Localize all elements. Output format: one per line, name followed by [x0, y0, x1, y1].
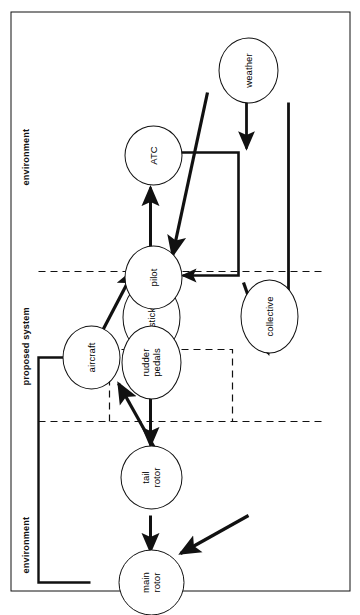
zone-label-environment-bottom: environment: [20, 128, 30, 185]
node-collective[interactable]: collective: [240, 279, 298, 353]
node-stick-label: stick: [146, 307, 157, 327]
node-rudder-pedals-label: rudder pedals: [140, 348, 161, 377]
diagram-outer-frame: [10, 11, 350, 591]
node-atc-label: ATC: [148, 146, 159, 165]
node-weather[interactable]: weather: [218, 37, 278, 103]
node-pilot-label: pilot: [148, 268, 159, 286]
zone-label-environment-top: environment: [20, 516, 30, 573]
node-tail-rotor[interactable]: tail rotor: [120, 445, 182, 509]
node-atc[interactable]: ATC: [124, 125, 182, 185]
node-tail-rotor-label: tail rotor: [140, 467, 161, 487]
node-aircraft[interactable]: aircraft: [62, 325, 120, 389]
node-aircraft-label: aircraft: [86, 342, 97, 372]
node-main-rotor-label: main rotor: [140, 572, 161, 593]
node-rudder-pedals[interactable]: rudder pedals: [121, 325, 181, 399]
node-weather-label: weather: [243, 53, 254, 88]
node-main-rotor[interactable]: main rotor: [118, 549, 184, 615]
node-collective-label: collective: [264, 296, 275, 336]
rotated-figure-canvas: environment proposed system environment: [0, 0, 360, 615]
zone-label-proposed-system: proposed system: [20, 307, 30, 385]
figure-page: environment proposed system environment: [0, 0, 360, 615]
node-pilot[interactable]: pilot: [124, 245, 182, 309]
